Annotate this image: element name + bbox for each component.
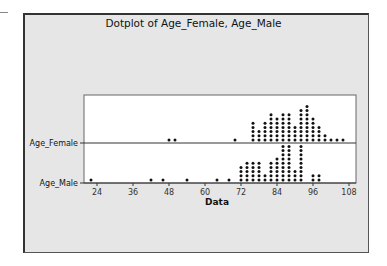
data-dot bbox=[276, 134, 279, 137]
data-dot bbox=[300, 134, 303, 137]
data-dot bbox=[240, 170, 243, 173]
data-dot bbox=[270, 122, 273, 125]
data-dot bbox=[294, 134, 297, 137]
data-dot bbox=[276, 122, 279, 125]
data-dot bbox=[294, 174, 297, 177]
data-dot bbox=[342, 139, 345, 142]
data-dot bbox=[246, 174, 249, 177]
data-dot bbox=[288, 126, 291, 129]
data-dot bbox=[282, 170, 285, 173]
data-dot bbox=[288, 113, 291, 116]
data-dot bbox=[264, 134, 267, 137]
data-dot bbox=[216, 179, 219, 182]
data-dot bbox=[336, 139, 339, 142]
data-dot bbox=[300, 158, 303, 161]
data-dot bbox=[240, 179, 243, 182]
dotplot-canvas: Age_FemaleAge_Male24364860728496108Data bbox=[0, 0, 387, 266]
data-dot bbox=[312, 134, 315, 137]
data-dot bbox=[288, 149, 291, 152]
data-dot bbox=[270, 134, 273, 137]
data-dot bbox=[324, 134, 327, 137]
data-dot bbox=[150, 179, 153, 182]
data-dot bbox=[324, 139, 327, 142]
data-dot bbox=[282, 134, 285, 137]
x-tick-label: 24 bbox=[92, 188, 102, 197]
data-dot bbox=[306, 109, 309, 112]
data-dot bbox=[270, 130, 273, 133]
data-dot bbox=[306, 126, 309, 129]
data-dot bbox=[288, 174, 291, 177]
data-dot bbox=[246, 170, 249, 173]
data-dot bbox=[252, 130, 255, 133]
data-dot bbox=[162, 179, 165, 182]
data-dot bbox=[300, 130, 303, 133]
data-dot bbox=[300, 126, 303, 129]
data-dot bbox=[312, 179, 315, 182]
data-dot bbox=[246, 179, 249, 182]
data-dot bbox=[300, 118, 303, 121]
data-dot bbox=[306, 130, 309, 133]
data-dot bbox=[276, 170, 279, 173]
data-dot bbox=[300, 166, 303, 169]
data-dot bbox=[258, 170, 261, 173]
data-dot bbox=[282, 174, 285, 177]
data-dot bbox=[306, 134, 309, 137]
data-dot bbox=[282, 153, 285, 156]
data-dot bbox=[294, 126, 297, 129]
data-dot bbox=[288, 166, 291, 169]
data-dot bbox=[276, 174, 279, 177]
data-dot bbox=[252, 179, 255, 182]
data-dot bbox=[318, 179, 321, 182]
data-dot bbox=[288, 153, 291, 156]
data-dot bbox=[288, 118, 291, 121]
data-dot bbox=[282, 166, 285, 169]
data-dot bbox=[282, 145, 285, 148]
data-dot bbox=[276, 179, 279, 182]
data-dot bbox=[276, 139, 279, 142]
data-dot bbox=[174, 139, 177, 142]
data-dot bbox=[270, 113, 273, 116]
data-dot bbox=[330, 139, 333, 142]
data-dot bbox=[240, 174, 243, 177]
data-dot bbox=[300, 109, 303, 112]
data-dot bbox=[312, 122, 315, 125]
data-dot bbox=[294, 130, 297, 133]
data-dot bbox=[282, 113, 285, 116]
data-dot bbox=[300, 122, 303, 125]
data-dot bbox=[264, 130, 267, 133]
data-dot bbox=[258, 179, 261, 182]
data-dot bbox=[258, 130, 261, 133]
data-dot bbox=[276, 118, 279, 121]
data-dot bbox=[258, 166, 261, 169]
data-dot bbox=[264, 139, 267, 142]
data-dot bbox=[318, 126, 321, 129]
data-dot bbox=[234, 139, 237, 142]
data-dot bbox=[300, 145, 303, 148]
data-dot bbox=[252, 174, 255, 177]
data-dot bbox=[288, 162, 291, 165]
data-dot bbox=[288, 179, 291, 182]
data-dot bbox=[318, 130, 321, 133]
data-dot bbox=[276, 158, 279, 161]
series-label: Age_Male bbox=[40, 179, 79, 188]
data-dot bbox=[276, 162, 279, 165]
data-dot bbox=[300, 153, 303, 156]
data-dot bbox=[90, 179, 93, 182]
data-dot bbox=[312, 126, 315, 129]
data-dot bbox=[294, 170, 297, 173]
data-dot bbox=[294, 179, 297, 182]
data-dot bbox=[318, 139, 321, 142]
data-dot bbox=[312, 174, 315, 177]
data-dot bbox=[264, 179, 267, 182]
data-dot bbox=[288, 139, 291, 142]
data-dot bbox=[252, 162, 255, 165]
data-dot bbox=[288, 134, 291, 137]
data-dot bbox=[300, 113, 303, 116]
data-dot bbox=[270, 118, 273, 121]
data-dot bbox=[258, 162, 261, 165]
data-dot bbox=[258, 134, 261, 137]
data-dot bbox=[252, 170, 255, 173]
data-dot bbox=[300, 170, 303, 173]
data-dot bbox=[246, 162, 249, 165]
data-dot bbox=[270, 126, 273, 129]
